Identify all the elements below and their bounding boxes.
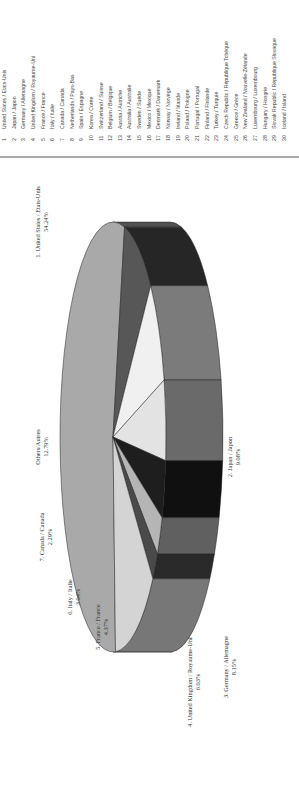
legend-item-spain: Spain / Espagne bbox=[78, 91, 84, 129]
legend-item-austria: Austria / Autriche bbox=[117, 90, 123, 129]
pie-side-canada bbox=[153, 554, 215, 579]
legend-number: 20 bbox=[184, 135, 190, 141]
legend-number: 29 bbox=[271, 135, 277, 141]
legend-number: 21 bbox=[194, 135, 200, 141]
legend-number: 4 bbox=[30, 138, 36, 141]
legend-number: 5 bbox=[40, 138, 46, 141]
legend: 1United States / Etats-Unis2Japan / Japo… bbox=[1, 38, 287, 141]
pie-side-france bbox=[162, 461, 223, 518]
slice-value-canada: 2.29% bbox=[46, 528, 53, 545]
legend-item-japan: Japan / Japon bbox=[11, 96, 17, 129]
slice-label-italy: 6. Italy / Italie bbox=[66, 579, 73, 615]
legend-item-czech-republic: Czech Republic / République Tchèque bbox=[223, 41, 229, 129]
slice-label-canada: 7. Canada / Canada bbox=[38, 512, 45, 561]
legend-number: 3 bbox=[20, 138, 26, 141]
pie-top-faces bbox=[60, 222, 166, 652]
legend-item-netherlands: Netherlands / Pays-Bas bbox=[69, 74, 75, 129]
legend-number: 26 bbox=[242, 135, 248, 141]
legend-item-norway: Norway / Norvège bbox=[165, 87, 171, 129]
legend-item-finland: Finland / Finlande bbox=[204, 88, 210, 129]
legend-item-mexico: Mexico / Mexique bbox=[146, 89, 152, 129]
slice-value-japan: 9.08% bbox=[234, 448, 241, 465]
legend-item-switzerland: Switzerland / Suisse bbox=[98, 82, 104, 129]
legend-item-slovak-republic: Slovak Republic / République Slovaque bbox=[271, 38, 277, 129]
legend-number: 2 bbox=[11, 138, 17, 141]
legend-item-portugal: Portugal / Portugal bbox=[194, 86, 200, 129]
slice-value-others: 12.79% bbox=[42, 437, 49, 457]
slice-label-united-states: 1. United States / Etats-Unis bbox=[34, 186, 41, 258]
legend-item-new-zealand: New Zealand / Nouvelle-Zélande bbox=[242, 53, 248, 129]
pie-chart: 1. United States / Etats-Unis54.24%2. Ja… bbox=[0, 0, 299, 787]
pie-side-italy bbox=[157, 518, 219, 554]
rotated-page: 1. United States / Etats-Unis54.24%2. Ja… bbox=[0, 0, 299, 787]
legend-item-united-states: United States / Etats-Unis bbox=[1, 69, 7, 129]
legend-item-poland: Poland / Pologne bbox=[184, 89, 190, 129]
legend-item-belgium: Belgium / Belgique bbox=[107, 86, 113, 129]
legend-number: 23 bbox=[213, 135, 219, 141]
pie-side-united-kingdom bbox=[164, 380, 223, 461]
legend-number: 10 bbox=[88, 135, 94, 141]
legend-number: 17 bbox=[155, 135, 161, 141]
slice-value-france: 4.37% bbox=[102, 618, 109, 635]
legend-number: 8 bbox=[69, 138, 75, 141]
legend-number: 28 bbox=[262, 135, 268, 141]
slice-value-united-states: 54.24% bbox=[42, 212, 49, 232]
legend-number: 25 bbox=[233, 135, 239, 141]
legend-item-france: France / France bbox=[40, 92, 46, 129]
legend-item-luxembourg: Luxembourg / Luxembourg bbox=[252, 67, 258, 129]
legend-number: 27 bbox=[252, 135, 258, 141]
legend-number: 13 bbox=[117, 135, 123, 141]
slice-label-germany: 3. Germany / Allemagne bbox=[222, 636, 229, 698]
legend-item-canada: Canada / Canada bbox=[59, 88, 65, 129]
legend-item-greece: Greece / Grèce bbox=[233, 93, 239, 129]
legend-number: 14 bbox=[126, 135, 132, 141]
legend-item-united-kingdom: United Kingdom / Royaume-Uni bbox=[30, 56, 36, 129]
slice-label-france: 5. France / France bbox=[94, 604, 101, 650]
legend-item-hungary: Hungary / Hongrie bbox=[262, 87, 268, 129]
legend-number: 18 bbox=[165, 135, 171, 141]
legend-item-italy: Italy / Italie bbox=[49, 104, 55, 129]
legend-item-sweden: Sweden / Suède bbox=[136, 91, 142, 129]
legend-number: 15 bbox=[136, 135, 142, 141]
legend-number: 16 bbox=[146, 135, 152, 141]
legend-item-ireland: Ireland / Irlande bbox=[175, 93, 181, 129]
legend-item-iceland: Iceland / Island bbox=[281, 94, 287, 129]
slice-label-japan: 2. Japan / Japon bbox=[226, 436, 233, 477]
legend-number: 1 bbox=[1, 138, 7, 141]
slice-label-united-kingdom: 4. United Kingdom / Royaume-Uni bbox=[186, 637, 193, 727]
legend-item-australia: Australia / Australie bbox=[126, 84, 132, 129]
legend-number: 7 bbox=[59, 138, 65, 141]
slice-value-united-kingdom: 6.03% bbox=[194, 673, 201, 690]
legend-number: 24 bbox=[223, 135, 229, 141]
legend-item-denmark: Denmark / Danemark bbox=[155, 79, 161, 129]
legend-number: 30 bbox=[281, 135, 287, 141]
legend-item-turkey: Turkey / Turquie bbox=[213, 92, 219, 129]
legend-number: 11 bbox=[98, 136, 104, 141]
legend-number: 12 bbox=[107, 135, 113, 141]
legend-number: 6 bbox=[49, 138, 55, 141]
legend-number: 19 bbox=[175, 135, 181, 141]
legend-number: 22 bbox=[204, 135, 210, 141]
legend-number: 9 bbox=[78, 138, 84, 141]
slice-value-italy: 3.04% bbox=[74, 588, 81, 605]
legend-item-germany: Germany / Allemagne bbox=[20, 79, 26, 129]
slice-label-others: Others/Autres bbox=[34, 429, 41, 465]
legend-item-korea: Korea / Corée bbox=[88, 97, 94, 129]
slice-value-germany: 8.15% bbox=[230, 658, 237, 675]
